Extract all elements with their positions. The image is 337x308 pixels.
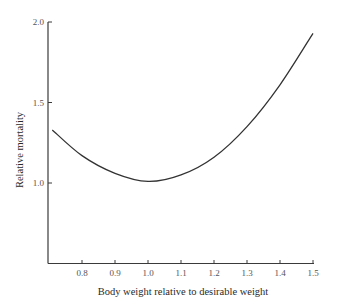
x-axis: 0.80.91.01.11.21.31.41.5 [48,260,319,278]
y-axis: 1.01.52.0 [33,17,52,264]
x-tick-label: 1.1 [175,268,186,278]
x-tick-label: 0.9 [109,268,121,278]
x-tick-label: 1.3 [241,268,253,278]
y-tick-label: 2.0 [33,17,45,27]
x-tick-label: 1.4 [274,268,286,278]
mortality-curve [52,33,313,181]
y-axis-label: Relative mortality [14,111,25,188]
x-tick-label: 1.5 [307,268,319,278]
x-tick-label: 0.8 [76,268,88,278]
x-axis-label: Body weight relative to desirable weight [98,286,269,297]
y-tick-label: 1.0 [33,178,45,188]
x-tick-label: 1.0 [142,268,154,278]
x-tick-label: 1.2 [208,268,219,278]
y-tick-label: 1.5 [33,98,45,108]
chart: 1.01.52.0 0.80.91.01.11.21.31.41.5 Body … [0,0,337,308]
